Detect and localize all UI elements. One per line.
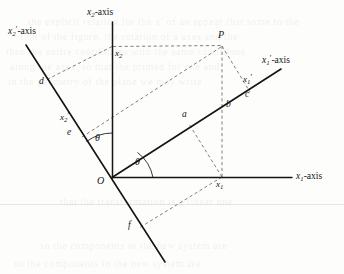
axis-label-x1: x1-axis — [296, 172, 322, 183]
segment-label-a: a — [182, 110, 187, 120]
dashed-x2-to-d — [46, 47, 112, 81]
segment-label-d: d — [39, 77, 44, 87]
segment-label-b: b — [226, 100, 231, 110]
axis-label-x2: x2-axis — [87, 8, 113, 19]
angle-label-theta-upper: θ — [95, 133, 100, 143]
angle-label-theta-lower: θ — [135, 157, 140, 167]
axis-x2p-line — [26, 45, 165, 262]
point-label-origin: O — [97, 176, 104, 186]
segment-label-c: c — [245, 90, 249, 100]
segment-label-f: f — [128, 221, 131, 231]
figure-drawing — [0, 0, 344, 274]
dashed-x1-to-f — [139, 177, 222, 228]
coord-label-x1: x1 — [216, 180, 223, 191]
coord-label-x2: x2 — [115, 49, 122, 60]
coord-label-x1-prime: x1′ — [243, 74, 252, 86]
coordinate-rotation-figure: the explicit relation for the x′ of an a… — [0, 0, 344, 274]
point-label-P: P — [218, 30, 224, 40]
axis-label-x1-prime: x1′-axis — [262, 55, 290, 67]
dashed-x1-to-a — [189, 124, 222, 177]
dashed-x2-to-P — [113, 46, 222, 47]
axis-label-x2-prime: x2′-axis — [8, 26, 36, 38]
dashed-P-to-e — [82, 47, 221, 137]
coord-label-x2-prime: x2′ — [60, 112, 69, 124]
segment-label-e: e — [67, 128, 71, 138]
